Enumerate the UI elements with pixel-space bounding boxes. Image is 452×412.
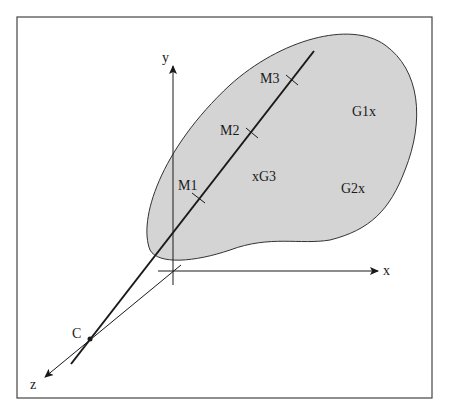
z-axis <box>45 265 181 377</box>
m2-label: M2 <box>220 123 239 138</box>
camera-point <box>88 337 93 342</box>
z-axis-label: z <box>30 377 36 392</box>
y-axis-label: y <box>162 50 169 65</box>
g3-label: xG3 <box>252 169 276 184</box>
g1-label: G1x <box>352 104 376 119</box>
camera-point-label: C <box>72 326 81 341</box>
g2-label: G2x <box>341 181 365 196</box>
m1-label: M1 <box>178 178 197 193</box>
x-axis-label: x <box>383 263 390 278</box>
diagram-canvas: y x z C M3 M2 M1 G1x G2x xG3 <box>0 0 452 412</box>
m3-label: M3 <box>260 71 279 86</box>
object-region <box>147 34 417 260</box>
